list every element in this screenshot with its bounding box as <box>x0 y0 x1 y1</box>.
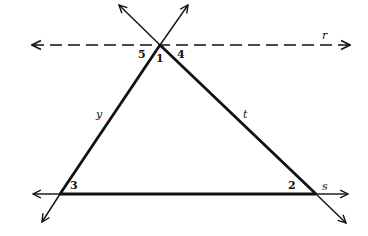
label-line-r: r <box>322 29 328 42</box>
triangle-side-y <box>60 45 160 194</box>
line-t-upper-ext <box>119 5 160 45</box>
label-line-s: s <box>322 180 328 193</box>
angle-1-label: 1 <box>156 52 164 65</box>
angle-5-label: 5 <box>138 48 146 61</box>
label-line-t: t <box>243 108 248 121</box>
angle-4-label: 4 <box>177 48 185 61</box>
angle-3-label: 3 <box>70 179 78 192</box>
line-t-lower-ext <box>316 194 346 223</box>
label-line-y: y <box>95 108 103 121</box>
triangle-side-t <box>160 45 316 194</box>
geometry-diagram: r s t y 1 4 5 3 2 <box>0 0 368 236</box>
line-y-lower-ext <box>42 194 60 222</box>
angle-2-label: 2 <box>288 179 296 192</box>
line-y-upper-ext <box>160 5 188 45</box>
